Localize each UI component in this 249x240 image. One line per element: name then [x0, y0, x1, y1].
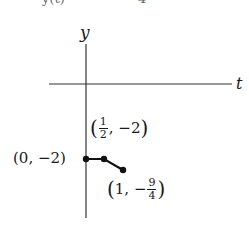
point-1 — [120, 167, 126, 173]
point-0 — [83, 156, 89, 162]
label-point-half: (12, −2) — [90, 116, 148, 140]
fraction-one-half: 12 — [99, 116, 108, 140]
y-axis-label: y — [80, 24, 90, 41]
label-point-1: (1, −94) — [107, 177, 165, 201]
label-point-0: (0, −2) — [13, 151, 66, 166]
t-axis-label: t — [236, 76, 242, 92]
fraction-nine-fourths: 94 — [147, 177, 156, 201]
point-half — [101, 156, 107, 162]
